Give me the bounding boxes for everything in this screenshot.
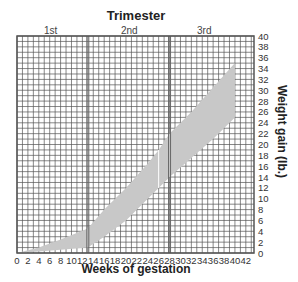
svg-text:22: 22 [258,128,269,139]
y-axis-ticks: 0246810121416182022242628303234363840 [258,31,269,259]
svg-text:14: 14 [258,172,269,183]
svg-text:34: 34 [258,63,269,74]
svg-text:4: 4 [258,226,263,237]
x-axis-label: Weeks of gestation [0,262,272,276]
svg-text:40: 40 [258,31,269,42]
svg-text:16: 16 [258,161,269,172]
svg-text:30: 30 [258,85,269,96]
svg-text:12: 12 [258,182,269,193]
svg-text:10: 10 [258,193,269,204]
svg-text:26: 26 [258,106,269,117]
plot-area: 024681012141618202224262830323436384042 … [0,0,298,282]
svg-text:20: 20 [258,139,269,150]
svg-text:24: 24 [258,117,269,128]
svg-text:2: 2 [258,237,263,248]
svg-text:6: 6 [258,215,263,226]
svg-text:8: 8 [258,204,263,215]
svg-text:36: 36 [258,52,269,63]
svg-text:32: 32 [258,74,269,85]
svg-text:28: 28 [258,96,269,107]
y-axis-label: Weight gain (lb.) [275,85,289,178]
svg-text:0: 0 [258,248,263,259]
svg-text:38: 38 [258,41,269,52]
grid-lines [17,36,254,253]
svg-text:18: 18 [258,150,269,161]
